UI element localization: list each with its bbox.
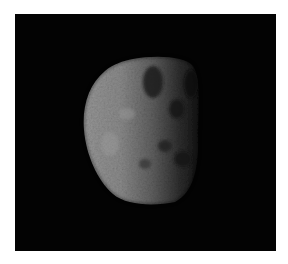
- space-photo-frame: [15, 14, 276, 251]
- moon-surface: [75, 52, 205, 212]
- moon-body-graphic: [15, 14, 276, 251]
